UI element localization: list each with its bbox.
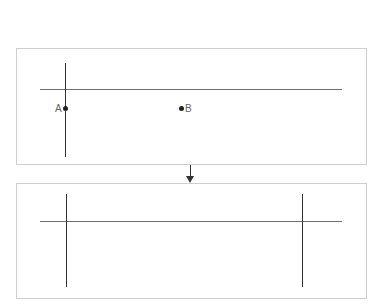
point-a-label: A: [55, 104, 62, 114]
bottom-right-vertical-line: [302, 194, 303, 287]
point-b-label: B: [185, 104, 192, 114]
bottom-panel: [16, 183, 367, 299]
point-b: [179, 106, 184, 111]
point-a: [63, 106, 68, 111]
bottom-horizontal-line: [40, 221, 342, 222]
down-arrow-icon: [186, 176, 194, 183]
top-horizontal-line: [40, 89, 342, 90]
bottom-left-vertical-line: [66, 194, 67, 287]
